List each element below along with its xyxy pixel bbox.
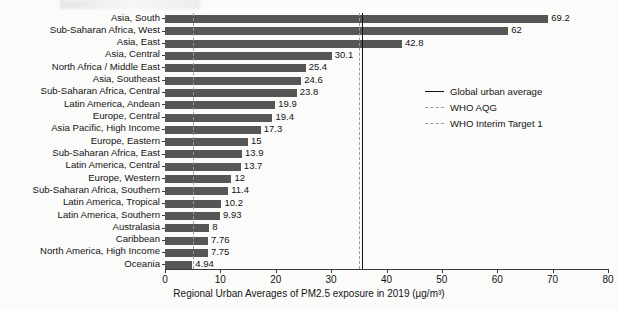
category-label: Sub-Saharan Africa, Southern	[33, 184, 160, 196]
bar	[165, 126, 261, 134]
bar	[165, 224, 209, 232]
bar	[165, 77, 301, 85]
category-label: Asia, Central	[105, 48, 160, 60]
category-label: Latin America, Central	[66, 159, 160, 171]
x-tick	[442, 269, 443, 273]
x-tick	[165, 269, 166, 273]
bar-value-label: 11.4	[231, 184, 249, 195]
category-label: Sub-Saharan Africa, West	[50, 24, 160, 36]
bar-value-label: 17.3	[264, 123, 283, 134]
bar-row: Europe, Eastern15	[165, 136, 608, 148]
legend-label: WHO AQG	[450, 102, 497, 113]
bar-row: North Africa / Middle East25.4	[165, 62, 608, 74]
x-tick-label: 30	[326, 274, 337, 286]
bar-row: Latin America, Southern9.93	[165, 210, 608, 222]
category-label: Europe, Central	[93, 110, 160, 122]
bar	[165, 101, 275, 109]
legend-item: Global urban average	[425, 84, 543, 98]
category-label: Europe, Eastern	[91, 135, 160, 147]
bar	[165, 175, 231, 183]
bar-value-label: 7.76	[211, 234, 230, 245]
bar-rows: Asia, South69.2Sub-Saharan Africa, West6…	[165, 13, 608, 272]
bar	[165, 150, 242, 158]
x-tick	[331, 269, 332, 273]
bar-row: Sub-Saharan Africa, West62	[165, 25, 608, 37]
legend-item: WHO AQG	[425, 100, 543, 114]
bar-value-label: 7.75	[211, 246, 230, 257]
category-label: Latin America, Andean	[64, 98, 160, 110]
bar	[165, 163, 241, 171]
bar	[165, 52, 332, 60]
legend-line-swatch	[425, 123, 444, 124]
bar-value-label: 4.94	[195, 258, 214, 269]
legend-line-swatch	[425, 107, 444, 108]
x-tick-label: 50	[436, 274, 447, 286]
plot-area: Asia, South69.2Sub-Saharan Africa, West6…	[165, 13, 608, 269]
legend: Global urban averageWHO AQGWHO Interim T…	[425, 84, 543, 132]
x-tick	[553, 269, 554, 273]
pm25-bar-chart: Asia, South69.2Sub-Saharan Africa, West6…	[0, 0, 618, 310]
bar-value-label: 10.2	[224, 197, 243, 208]
category-label: Australasia	[113, 221, 160, 233]
bar	[165, 40, 402, 48]
legend-line-swatch	[425, 91, 444, 92]
category-label: Latin America, Southern	[58, 209, 160, 221]
category-label: Asia, East	[117, 36, 160, 48]
bar	[165, 237, 208, 245]
category-label: Sub-Saharan Africa, East	[52, 147, 160, 159]
bar	[165, 89, 297, 97]
bar-row: Caribbean7.76	[165, 235, 608, 247]
x-tick-label: 70	[547, 274, 558, 286]
bar-row: Asia, South69.2	[165, 13, 608, 25]
bar-row: Sub-Saharan Africa, East13.9	[165, 148, 608, 160]
bar	[165, 138, 248, 146]
category-label: Caribbean	[116, 233, 160, 245]
bar-value-label: 62	[511, 24, 522, 35]
reference-line	[193, 13, 194, 269]
bar-value-label: 42.8	[405, 37, 424, 48]
bar-value-label: 13.9	[245, 147, 264, 158]
bar	[165, 249, 208, 257]
reference-line	[362, 13, 363, 269]
bar-row: North America, High Income7.75	[165, 247, 608, 259]
bar-value-label: 9.93	[223, 209, 242, 220]
category-label: North America, High Income	[40, 245, 160, 257]
bar-value-label: 8	[212, 221, 217, 232]
bar	[165, 114, 272, 122]
bar-value-label: 69.2	[551, 12, 570, 23]
x-tick-label: 10	[215, 274, 226, 286]
x-tick-label: 20	[270, 274, 281, 286]
x-tick-label: 40	[381, 274, 392, 286]
bar-row: Asia, Central30.1	[165, 50, 608, 62]
x-tick	[497, 269, 498, 273]
bar-value-label: 13.7	[244, 160, 263, 171]
x-tick-label: 0	[162, 274, 168, 286]
bar-row: Australasia8	[165, 222, 608, 234]
x-tick	[276, 269, 277, 273]
category-label: Oceania	[124, 258, 160, 270]
category-label: Latin America, Tropical	[63, 196, 160, 208]
bar	[165, 15, 548, 23]
bar-value-label: 12	[234, 172, 245, 183]
x-tick	[387, 269, 388, 273]
bar-value-label: 19.4	[275, 111, 294, 122]
category-label: Asia, Southeast	[93, 73, 160, 85]
bar	[165, 27, 508, 35]
x-tick	[220, 269, 221, 273]
category-label: North Africa / Middle East	[52, 61, 160, 73]
bar-value-label: 15	[251, 135, 262, 146]
reference-line	[359, 13, 360, 269]
x-tick-label: 60	[492, 274, 503, 286]
category-label: Europe, Western	[88, 172, 160, 184]
bar-value-label: 19.9	[278, 98, 297, 109]
bar-value-label: 24.6	[304, 74, 323, 85]
bar-value-label: 23.8	[300, 86, 319, 97]
bar	[165, 187, 228, 195]
legend-item: WHO Interim Target 1	[425, 116, 543, 130]
bar-row: Latin America, Central13.7	[165, 161, 608, 173]
bar-row: Asia, East42.8	[165, 38, 608, 50]
bar	[165, 64, 306, 72]
category-label: Sub-Saharan Africa, Central	[41, 85, 160, 97]
legend-label: Global urban average	[450, 86, 542, 97]
x-tick	[608, 269, 609, 273]
